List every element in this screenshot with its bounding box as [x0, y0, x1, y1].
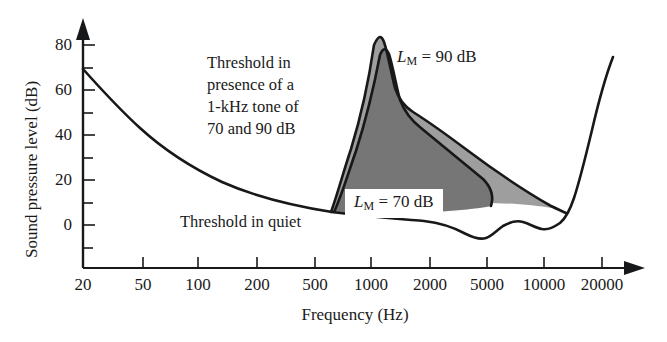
threshold-presence-note: Threshold in presence of a 1-kHz tone of… — [207, 52, 299, 140]
x-tick-label-1000: 1000 — [354, 275, 388, 295]
y-tick-label-60: 60 — [55, 80, 72, 100]
x-tick-label-5000: 5000 — [470, 275, 504, 295]
x-tick-label-20000: 20000 — [581, 275, 624, 295]
y-tick-label-80: 80 — [55, 35, 72, 55]
figure-root: 20 50 100 200 500 1000 2000 5000 10000 2… — [0, 0, 667, 342]
x-ticks — [143, 257, 602, 268]
x-axis-arrowhead — [624, 261, 645, 275]
lm-70-label: LM = 70 dB — [345, 189, 443, 218]
lm-90-value: = 90 dB — [417, 47, 476, 66]
x-tick-label-2000: 2000 — [413, 275, 447, 295]
chart-canvas — [0, 0, 667, 342]
x-tick-label-10000: 10000 — [523, 275, 566, 295]
x-tick-label-20: 20 — [75, 275, 92, 295]
y-tick-label-20: 20 — [55, 170, 72, 190]
x-tick-label-500: 500 — [302, 275, 328, 295]
lm-70-value: = 70 dB — [374, 192, 433, 211]
y-tick-label-40: 40 — [55, 125, 72, 145]
lm-90-subscript: M — [406, 54, 417, 68]
x-tick-label-50: 50 — [135, 275, 152, 295]
lm-70-subscript: M — [363, 199, 374, 213]
x-tick-label-200: 200 — [244, 275, 270, 295]
y-minor-ticks — [83, 68, 93, 248]
x-axis-title: Frequency (Hz) — [301, 305, 408, 325]
lm-90-label: LM = 90 dB — [397, 47, 477, 69]
y-axis-arrowhead — [76, 18, 90, 40]
threshold-in-quiet-label: Threshold in quiet — [180, 212, 301, 232]
y-tick-label-0: 0 — [64, 215, 73, 235]
x-tick-label-100: 100 — [185, 275, 211, 295]
y-axis-title: Sound pressure level (dB) — [22, 81, 42, 258]
